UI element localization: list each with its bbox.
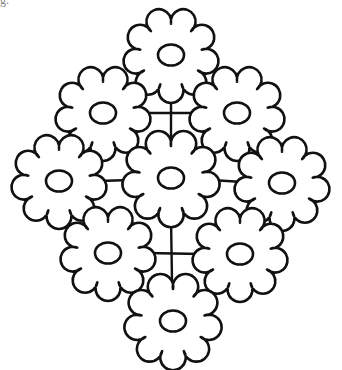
flower-lower-left bbox=[61, 207, 156, 301]
flowers bbox=[12, 9, 330, 370]
flower-diamond-drawing bbox=[0, 0, 342, 370]
flower-petals bbox=[61, 207, 156, 301]
